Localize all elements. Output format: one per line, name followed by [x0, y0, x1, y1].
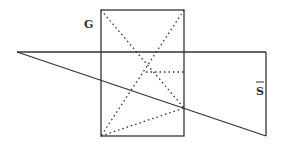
diagonal-line — [17, 52, 266, 136]
dotted-top-right-to-bottom-left — [101, 10, 184, 136]
label-s-bar: S — [256, 82, 264, 98]
dotted-bottom-left-to-right-mid — [101, 108, 184, 136]
geometric-diagram: G S — [0, 0, 296, 147]
dotted-top-left-to-right-mid — [101, 10, 184, 108]
label-g: G — [84, 18, 93, 31]
label-s: S — [256, 85, 264, 98]
